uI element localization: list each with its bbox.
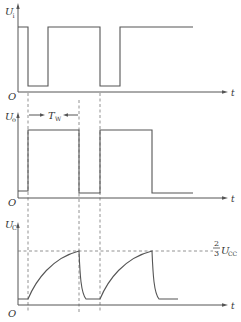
- uo-y-label-sub: o: [12, 116, 16, 124]
- pulse-width-annotation: T W: [29, 110, 78, 122]
- ui-x-axis-arrow-icon: [222, 90, 228, 93]
- monostable-timing-diagram: U i O t T W U o O t U: [0, 0, 241, 322]
- uo-waveform: [18, 130, 193, 193]
- threshold-numerator: 2: [214, 239, 219, 248]
- uc-y-label-sub: C: [12, 224, 17, 232]
- threshold-label: 2 3 U CC: [213, 239, 238, 258]
- panel-uc: U C O t 2 3 U CC: [5, 219, 238, 319]
- uo-origin-label: O: [8, 197, 16, 208]
- uc-waveform: [18, 251, 178, 299]
- uo-x-axis-arrow-icon: [222, 196, 228, 199]
- tw-label-sub: W: [55, 115, 62, 122]
- uo-x-label: t: [231, 194, 235, 204]
- uo-y-axis-arrow-icon: [16, 112, 19, 118]
- ui-origin-label: O: [8, 91, 16, 102]
- panel-ui: U i O t: [5, 3, 235, 102]
- uc-origin-label: O: [8, 308, 16, 319]
- ui-y-label-sub: i: [13, 12, 15, 20]
- uc-x-label: t: [231, 301, 235, 311]
- tw-left-arrowhead-icon: [63, 113, 68, 116]
- threshold-denominator: 3: [214, 249, 219, 258]
- ui-x-label: t: [231, 88, 235, 98]
- tw-right-arrowhead-icon: [40, 113, 45, 116]
- threshold-var-sub: CC: [228, 250, 238, 257]
- ui-y-axis-arrow-icon: [16, 3, 19, 9]
- panel-uo: T W U o O t: [5, 110, 235, 208]
- uc-x-axis-arrow-icon: [222, 303, 228, 306]
- ui-waveform: [18, 27, 193, 86]
